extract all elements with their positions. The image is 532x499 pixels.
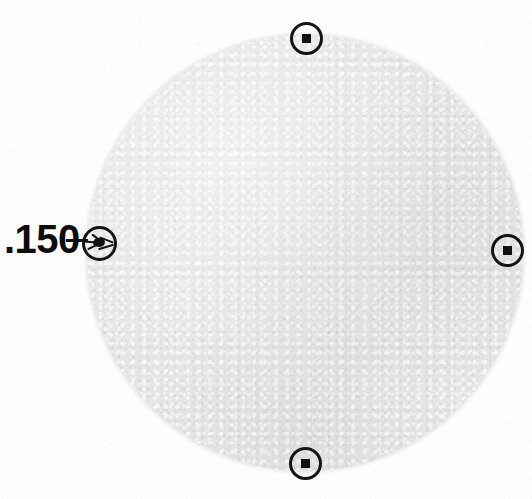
figure-canvas: .150	[0, 0, 532, 499]
specimen-disk	[87, 35, 523, 471]
marker-right[interactable]	[491, 234, 524, 267]
callout-label-150: .150	[4, 219, 80, 259]
disk-shading	[87, 35, 523, 471]
marker-core-square-icon	[301, 459, 310, 468]
marker-left[interactable]	[82, 226, 117, 261]
marker-core-square-icon	[503, 246, 512, 255]
marker-bottom[interactable]	[289, 447, 322, 480]
marker-top[interactable]	[290, 22, 323, 55]
marker-core-blob-icon	[89, 236, 109, 250]
marker-core-square-icon	[302, 34, 311, 43]
blob-body	[93, 238, 105, 247]
